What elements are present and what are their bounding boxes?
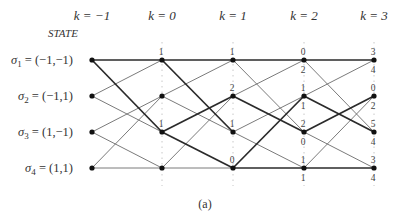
- time-label-k-3: k = 3: [360, 8, 388, 23]
- time-label-k-0: k = 0: [148, 8, 176, 23]
- metric-below-k2-s4: 1: [301, 173, 306, 183]
- metric-above-k1-s3: 1: [230, 119, 235, 129]
- metric-above-k3-s3: 5: [371, 119, 376, 129]
- state-column-title: STATE: [48, 27, 78, 39]
- trellis-canvas: STATE k = −1 k = 0 k = 1 k = 2 k = 3 σ1 …: [0, 0, 404, 218]
- metric-above-k3-s1: 3: [371, 47, 376, 57]
- trellis-node-k3-s3: [371, 129, 376, 134]
- trellis-node-k2-s3: [301, 129, 306, 134]
- edge-k-1-s2-to-s1: [92, 60, 162, 96]
- trellis-node-k1-s2: [230, 93, 235, 98]
- time-label-k-2: k = 2: [290, 8, 318, 23]
- metric-below-k3-s4: 4: [371, 173, 376, 183]
- trellis-node-k2-s2: [301, 93, 306, 98]
- trellis-node-k-1-s1: [89, 57, 94, 62]
- metric-above-k1-s1: 1: [230, 47, 235, 57]
- trellis-node-k-1-s2: [89, 93, 94, 98]
- edge-k-1-s3-to-s4: [92, 132, 162, 168]
- figure-caption: (a): [198, 197, 211, 211]
- edge-k1-s3-to-s4: [233, 132, 304, 168]
- metric-below-k3-s1: 4: [371, 65, 376, 75]
- edge-k0-s4-to-s2: [162, 96, 233, 168]
- edge-k1-s4-to-s2-survivor: [233, 96, 304, 168]
- edge-k2-s2-to-s1: [304, 60, 374, 96]
- trellis-node-k0-s4: [159, 165, 164, 170]
- metric-above-k2-s3: 2: [301, 119, 306, 129]
- metric-above-k3-s4: 3: [371, 155, 376, 165]
- trellis-node-k-1-s4: [89, 165, 94, 170]
- metric-above-k3-s2: 0: [371, 83, 376, 93]
- trellis-node-k0-s3: [159, 129, 164, 134]
- metric-below-k2-s3: 0: [301, 137, 306, 147]
- metric-below-k3-s2: 2: [371, 101, 376, 111]
- trellis-node-k3-s4: [371, 165, 376, 170]
- edge-k-1-s4-to-s2: [92, 96, 162, 168]
- trellis-node-k0-s2: [159, 93, 164, 98]
- state-label-sigma-2: σ2 = (−1,1): [18, 89, 73, 105]
- metric-below-k3-s3: 4: [371, 137, 376, 147]
- edge-k0-s1-to-s3-survivor: [162, 60, 233, 132]
- state-label-sigma-3: σ3 = (1,−1): [18, 125, 73, 141]
- metric-above-k2-s1: 0: [301, 47, 306, 57]
- trellis-node-k1-s1: [230, 57, 235, 62]
- trellis-node-k3-s2: [371, 93, 376, 98]
- trellis-node-k3-s1: [371, 57, 376, 62]
- edge-k0-s2-to-s1: [162, 60, 233, 96]
- trellis-node-k2-s1: [301, 57, 306, 62]
- metric-above-k0-s3: 1: [159, 119, 164, 129]
- state-label-sigma-1: σ1 = (−1,−1): [11, 53, 73, 69]
- time-step-labels: k = −1 k = 0 k = 1 k = 2 k = 3: [74, 8, 388, 23]
- metric-above-k1-s2: 2: [230, 83, 235, 93]
- metric-above-k2-s4: 1: [301, 155, 306, 165]
- metric-below-k2-s2: 1: [301, 101, 306, 111]
- metric-above-k0-s1: 1: [159, 47, 164, 57]
- trellis-node-k0-s1: [159, 57, 164, 62]
- trellis-node-k2-s4: [301, 165, 306, 170]
- trellis-diagram: STATE k = −1 k = 0 k = 1 k = 2 k = 3 σ1 …: [0, 0, 404, 218]
- trellis-node-k-1-s3: [89, 129, 94, 134]
- edge-k2-s4-to-s2: [304, 96, 374, 168]
- metric-above-k2-s2: 1: [301, 83, 306, 93]
- edge-k1-s2-to-s1: [233, 60, 304, 96]
- edge-k-1-s1-to-s3-survivor: [92, 60, 162, 132]
- edge-k2-s1-to-s3: [304, 60, 374, 132]
- edge-k0-s3-to-s4-survivor: [162, 132, 233, 168]
- metric-below-k2-s1: 2: [301, 65, 306, 75]
- state-label-sigma-4: σ4 = (1,1): [25, 161, 73, 177]
- trellis-node-k1-s4: [230, 165, 235, 170]
- metric-above-k1-s4: 0: [230, 155, 235, 165]
- edge-k1-s1-to-s3: [233, 60, 304, 132]
- time-label-k-1: k = 1: [219, 8, 247, 23]
- trellis-node-k1-s3: [230, 129, 235, 134]
- edge-k2-s3-to-s4: [304, 132, 374, 168]
- state-labels: σ1 = (−1,−1) σ2 = (−1,1) σ3 = (1,−1) σ4 …: [11, 53, 73, 177]
- time-label-k-minus-1: k = −1: [74, 8, 110, 23]
